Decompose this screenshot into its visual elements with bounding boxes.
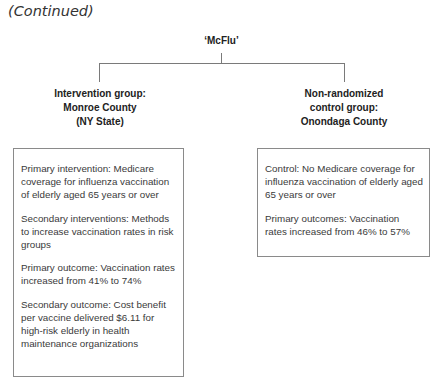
left-branch-drop-line: [99, 63, 100, 82]
intervention-group-label: Intervention group: Monroe County (NY St…: [40, 87, 160, 129]
control-label-line-1: Non-randomized: [284, 87, 404, 101]
right-branch-drop-line: [344, 63, 345, 82]
intervention-item: Primary intervention: Medicare coverage …: [21, 162, 177, 202]
intervention-item: Primary outcome: Vaccination rates incre…: [21, 261, 177, 287]
title-stem-line: [221, 53, 222, 63]
continued-label: (Continued): [8, 3, 94, 19]
diagram-title: ‘McFlu’: [0, 35, 433, 46]
intervention-label-line-1: Intervention group:: [40, 87, 160, 101]
control-label-line-2: control group:: [284, 101, 404, 115]
intervention-group-box: Primary intervention: Medicare coverage …: [13, 148, 184, 377]
control-label-line-3: Onondaga County: [284, 115, 404, 129]
intervention-label-line-2: Monroe County: [40, 101, 160, 115]
intervention-item: Secondary interventions: Methods to incr…: [21, 212, 177, 252]
intervention-label-line-3: (NY State): [40, 115, 160, 129]
control-group-box: Control: No Medicare coverage for influe…: [257, 148, 430, 257]
control-item: Control: No Medicare coverage for influe…: [265, 162, 423, 202]
control-group-label: Non-randomized control group: Onondaga C…: [284, 87, 404, 129]
branch-horizontal-line: [99, 63, 344, 64]
intervention-item: Secondary outcome: Cost benefit per vacc…: [21, 298, 177, 351]
control-item: Primary outcomes: Vaccination rates incr…: [265, 212, 423, 238]
